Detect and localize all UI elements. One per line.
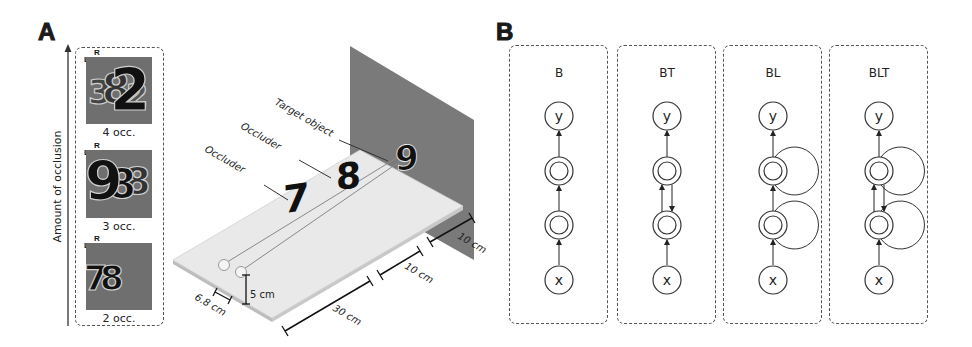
svg-text:x: x [555, 272, 563, 288]
right-eye-sphere [236, 267, 247, 278]
svg-text:y: y [769, 108, 777, 124]
svg-text:x: x [875, 272, 883, 288]
model-title-bl: BL [724, 66, 822, 80]
hidden-layer-2-node [759, 157, 787, 185]
svg-text:y: y [875, 108, 883, 124]
hidden-layer-2-node [653, 157, 681, 185]
model-title-blt: BLT [830, 66, 928, 80]
distance-10cm-label: 10 cm [403, 260, 436, 285]
hidden-layer-1-node [865, 211, 893, 239]
left-eye-sphere [219, 260, 230, 271]
target-object-label: Target object [273, 96, 336, 139]
distance-30cm-label: 30 cm [331, 302, 364, 327]
network-b: y x [545, 102, 573, 294]
occluder-label-back: Occluder [239, 120, 284, 152]
eye-height-label: 5 cm [250, 289, 275, 300]
panel-b-label: B [496, 18, 513, 46]
model-title-bt: BT [618, 66, 716, 80]
network-bl: y x [759, 102, 818, 294]
eye-separation-label: 6.8 cm [193, 291, 228, 318]
svg-text:y: y [663, 108, 671, 124]
svg-text:y: y [555, 108, 563, 124]
hidden-layer-1-node [759, 211, 787, 239]
model-title-b: B [510, 66, 608, 80]
network-blt: y x [865, 102, 924, 294]
svg-text:x: x [769, 272, 777, 288]
target-digit: 9 [395, 137, 419, 179]
hidden-layer-2-node [865, 157, 893, 185]
network-bt: y x [653, 102, 681, 294]
experimental-setup-scene: 7 8 9 Target object Occluder Occluder 5 … [0, 0, 490, 347]
hidden-layer-1-node [545, 211, 573, 239]
hidden-layer-2-node [545, 157, 573, 185]
front-occluder-digit: 7 [283, 175, 309, 222]
back-occluder-digit: 8 [336, 154, 361, 199]
occluder-label-front: Occluder [203, 143, 248, 175]
hidden-layer-1-node [653, 211, 681, 239]
network-diagrams: y x y x y x [500, 90, 972, 310]
svg-text:x: x [663, 272, 671, 288]
